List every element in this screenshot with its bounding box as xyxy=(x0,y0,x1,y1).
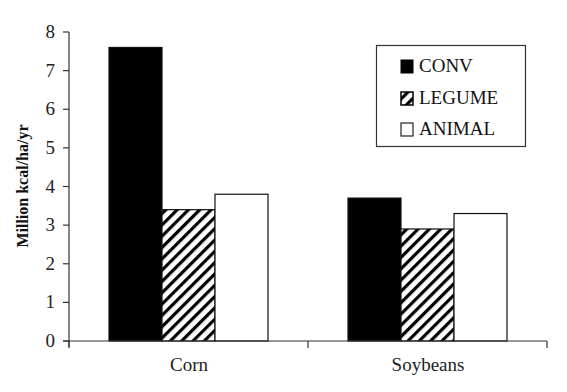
bar-conv-soybeans xyxy=(348,198,401,341)
y-axis-title: Million kcal/ha/yr xyxy=(14,124,32,247)
y-axis-tick-labels: 012345678 xyxy=(46,21,56,351)
bar-chart: Million kcal/ha/yr 012345678 Corn Soybea… xyxy=(0,0,567,392)
x-category-label-corn: Corn xyxy=(170,354,209,375)
y-tick-label: 8 xyxy=(46,21,56,42)
legend: CONV LEGUME ANIMAL xyxy=(377,46,526,147)
legend-label-conv: CONV xyxy=(419,55,473,76)
legend-swatch-legume-icon xyxy=(401,92,413,105)
y-tick-label: 1 xyxy=(46,291,56,312)
bar-animal-corn xyxy=(215,194,268,341)
bar-legume-corn xyxy=(162,210,215,341)
x-category-label-soybeans: Soybeans xyxy=(392,354,465,375)
bar-conv-corn xyxy=(109,47,162,341)
y-tick-label: 5 xyxy=(46,137,56,158)
y-tick-label: 0 xyxy=(46,330,56,351)
bar-legume-soybeans xyxy=(401,229,454,341)
y-tick-label: 2 xyxy=(46,253,56,274)
legend-label-legume: LEGUME xyxy=(419,87,498,108)
y-tick-label: 6 xyxy=(46,98,56,119)
legend-swatch-animal-icon xyxy=(401,123,413,136)
legend-swatch-conv-icon xyxy=(401,60,413,73)
y-tick-label: 7 xyxy=(46,60,56,81)
y-tick-label: 3 xyxy=(46,214,56,235)
y-tick-label: 4 xyxy=(46,176,56,197)
legend-label-animal: ANIMAL xyxy=(419,118,495,139)
bar-animal-soybeans xyxy=(454,214,507,341)
